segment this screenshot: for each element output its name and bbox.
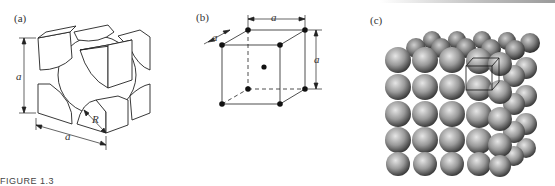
bcc-hard-sphere-diagram — [0, 0, 170, 170]
panel-a-edge-label-vertical: a — [16, 70, 22, 82]
figure-caption: FIGURE 1.3 — [0, 176, 54, 186]
panel-b-reduced-sphere-bcc: (b) — [160, 0, 340, 170]
panel-b-label: (b) — [196, 11, 209, 23]
atom-aggregate-render — [340, 0, 555, 186]
panel-a-radius-label: R — [92, 113, 99, 125]
panel-c-label: (c) — [370, 14, 382, 26]
panel-b-height-edge-label: a — [314, 53, 320, 65]
panel-b-top-edge-label: a — [271, 11, 277, 23]
panel-b-depth-edge-label: a — [212, 31, 218, 43]
panel-c-atom-aggregate: (c) — [340, 0, 555, 186]
panel-a-label: (a) — [14, 12, 26, 24]
panel-a-edge-label-horizontal: a — [65, 130, 71, 142]
panel-a-hard-sphere-bcc: (a) — [0, 0, 170, 170]
bcc-reduced-sphere-diagram — [160, 0, 340, 170]
